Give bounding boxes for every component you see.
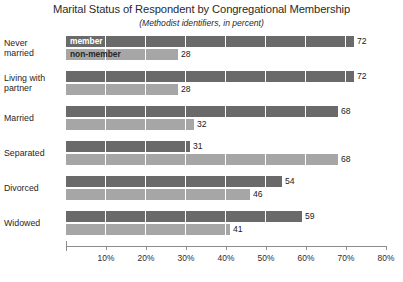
gridline-40	[225, 36, 226, 246]
bar-member	[66, 106, 338, 117]
chart-figure: Marital Status of Respondent by Congrega…	[0, 0, 403, 282]
category-label-never-married: Nevermarried	[4, 38, 62, 59]
x-axis-tick-10	[106, 246, 107, 250]
bar-value-label: 31	[190, 141, 203, 152]
bar-group: 3168	[66, 141, 386, 165]
bar-value-label: 72	[354, 71, 367, 82]
legend-label-non-member: non-member	[70, 49, 121, 60]
x-axis-tick-label: 10%	[98, 253, 115, 263]
x-axis-tick-label: 40%	[218, 253, 235, 263]
category-label-separated: Separated	[4, 148, 62, 159]
x-axis-tick-60	[306, 246, 307, 250]
x-axis-tick-50	[266, 246, 267, 250]
bar-non-member	[66, 189, 250, 200]
bar-non-member	[66, 84, 178, 95]
x-axis-tick-label: 70%	[338, 253, 355, 263]
x-axis-origin-tick	[66, 241, 67, 251]
chart-subtitle: (Methodist identifiers, in percent)	[0, 18, 403, 28]
gridline-50	[265, 36, 266, 246]
bar-value-label: 46	[250, 189, 263, 200]
x-axis-tick-70	[346, 246, 347, 250]
gridline-80	[385, 36, 386, 246]
category-label-living-with-partner: Living withpartner	[4, 73, 62, 94]
bar-value-label: 41	[230, 224, 243, 235]
bar-value-label: 72	[354, 36, 367, 47]
gridline-10	[105, 36, 106, 246]
category-label-divorced: Divorced	[4, 183, 62, 194]
bar-value-label: 28	[178, 49, 191, 60]
gridline-70	[345, 36, 346, 246]
bar-member	[66, 71, 354, 82]
bar-value-label: 28	[178, 84, 191, 95]
bar-member	[66, 211, 302, 222]
bar-member	[66, 176, 282, 187]
x-axis-tick-80	[386, 246, 387, 250]
bar-non-member	[66, 119, 194, 130]
x-axis-tick-40	[226, 246, 227, 250]
x-axis-tick-label: 50%	[258, 253, 275, 263]
bar-group: 5446	[66, 176, 386, 200]
x-axis-tick-label: 80%	[378, 253, 395, 263]
chart-title: Marital Status of Respondent by Congrega…	[0, 3, 403, 16]
bar-value-label: 68	[338, 106, 351, 117]
bar-group: 6832	[66, 106, 386, 130]
bar-value-label: 54	[282, 176, 295, 187]
bar-value-label: 68	[338, 154, 351, 165]
plot-area: 72member28non-member72286832316854465941	[66, 36, 386, 246]
bar-non-member	[66, 154, 338, 165]
category-label-widowed: Widowed	[4, 218, 62, 229]
x-axis-tick-30	[186, 246, 187, 250]
bar-group: 5941	[66, 211, 386, 235]
category-label-married: Married	[4, 113, 62, 124]
x-axis-tick-label: 20%	[138, 253, 155, 263]
bar-value-label: 32	[194, 119, 207, 130]
gridline-30	[185, 36, 186, 246]
bar-non-member	[66, 224, 230, 235]
x-axis-tick-label: 60%	[298, 253, 315, 263]
gridline-20	[145, 36, 146, 246]
legend-label-member: member	[70, 36, 103, 47]
x-axis-tick-label: 30%	[178, 253, 195, 263]
bar-member	[66, 141, 190, 152]
x-axis-tick-20	[146, 246, 147, 250]
bar-group: 72member28non-member	[66, 36, 386, 60]
bar-value-label: 59	[302, 211, 315, 222]
bar-member	[66, 36, 354, 47]
bar-group: 7228	[66, 71, 386, 95]
